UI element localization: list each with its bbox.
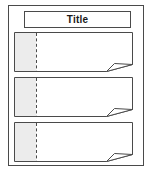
- document-panel-graphic: [14, 32, 133, 72]
- document-panel[interactable]: [14, 122, 133, 162]
- panel-left-gutter: [15, 78, 36, 116]
- document-panel-graphic: [14, 122, 133, 162]
- document-panel[interactable]: [14, 32, 133, 72]
- document-panel[interactable]: [14, 77, 133, 117]
- panel-left-gutter: [15, 33, 36, 71]
- page-title: Title: [67, 15, 88, 25]
- panel-left-gutter: [15, 123, 36, 161]
- title-box: Title: [24, 11, 131, 28]
- diagram-outer-frame: Title: [8, 5, 144, 166]
- document-panel-graphic: [14, 77, 133, 117]
